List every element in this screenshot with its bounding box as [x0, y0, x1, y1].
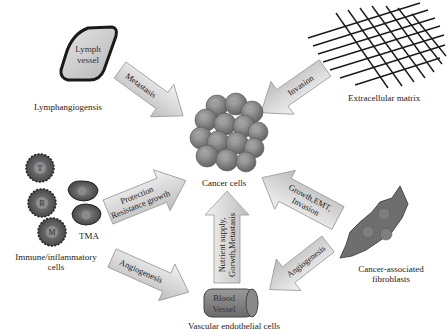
tma-cells-icon	[68, 181, 101, 225]
blood-vessel-icon: Blood Vessel	[204, 289, 258, 317]
immune-angiogenesis-arrow: Angiogenesis	[104, 240, 197, 311]
immune-label-line-1: Immune/inflammatory	[8, 252, 104, 262]
immune-cells-label: Immune/inflammatory cells	[8, 252, 104, 272]
vessel-text-2: Vessel	[213, 304, 236, 314]
cancer-cells-label: Cancer cells	[202, 178, 246, 188]
lymph-text-2: vessel	[77, 55, 99, 65]
vascular-endothelial-label: Vascular endothelial cells	[188, 321, 280, 331]
lymph-text-1: Lymph	[75, 44, 101, 54]
nutrient-label-2: Gorwth,Metastasis	[227, 213, 237, 277]
metastasis-arrow: Metastasis	[108, 54, 195, 132]
caf-label-line-1: Cancer-associated	[346, 264, 436, 274]
caf-growth-arrow: Growth,EMT, Invasion	[252, 158, 349, 237]
b-cell-letter: B	[39, 199, 44, 208]
lymph-vessel-shape: Lymph vessel	[61, 27, 117, 80]
t-cell-letter: T	[38, 164, 43, 173]
lymphangiogenesis-label: Lymphangiogensis	[34, 102, 102, 112]
t-cell-icon: T	[26, 154, 54, 182]
tma-label: TMA	[79, 231, 99, 241]
immune-label-line-2: cells	[8, 262, 104, 272]
caf-label: Cancer-associated fibroblasts	[346, 264, 436, 284]
fibroblasts-icon	[340, 186, 408, 258]
tumor-microenvironment-diagram: Lymph vessel Metastasis Invasion Protect…	[0, 0, 448, 336]
cancer-cells-cluster-icon	[190, 93, 268, 172]
b-cell-icon: B	[28, 189, 56, 217]
ecm-label: Extracellular matrix	[348, 93, 420, 103]
caf-label-line-2: fibroblasts	[346, 274, 436, 284]
nutrient-supply-arrow: Nutrient supply, Gorwth,Metastasis	[205, 191, 249, 283]
vessel-text-1: Blood	[213, 293, 236, 303]
nutrient-label-1: Nutrient supply,	[217, 218, 227, 273]
macrophage-letter: M	[48, 228, 55, 237]
invasion-arrow: Invasion	[250, 52, 337, 130]
protection-arrow: Protection Resistance growth	[100, 160, 194, 232]
caf-angiogenesis-arrow: Angiogenesis	[257, 228, 340, 305]
macrophage-cell-icon: M	[38, 218, 66, 246]
